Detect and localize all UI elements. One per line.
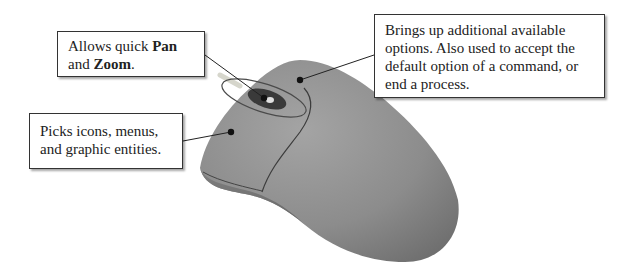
callout-line: end a process. [385, 75, 604, 93]
callout-line: Picks icons, menus, [40, 122, 182, 140]
right-button-dot [297, 77, 303, 83]
wheel-text-middle: and [68, 56, 93, 72]
wheel-text-after: . [131, 56, 135, 72]
callout-line: options. Also used to accept the [385, 39, 604, 57]
wheel-pan-label: Pan [152, 38, 177, 54]
callout-line: and graphic entities. [40, 140, 182, 158]
callout-line: default option of a command, or [385, 57, 604, 75]
cable [220, 75, 240, 86]
callout-left-button: Picks icons, menus, and graphic entities… [29, 113, 183, 169]
mouse-diagram: Allows quick Pan and Zoom. Brings up add… [0, 0, 635, 272]
callout-wheel: Allows quick Pan and Zoom. [57, 31, 205, 77]
wheel-text-before: Allows quick [68, 38, 152, 54]
callout-right-button: Brings up additional available options. … [374, 14, 605, 98]
leader-wheel [205, 55, 264, 98]
wheel-dot [261, 95, 267, 101]
callout-line: Brings up additional available [385, 21, 604, 39]
left-button-dot [228, 129, 234, 135]
wheel-zoom-label: Zoom [93, 56, 131, 72]
